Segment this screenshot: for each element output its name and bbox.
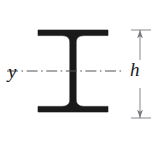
axis-label-y: y — [8, 62, 16, 81]
ibeam-cross-section-figure: y h — [0, 0, 162, 143]
dimension-label-h: h — [130, 60, 140, 79]
